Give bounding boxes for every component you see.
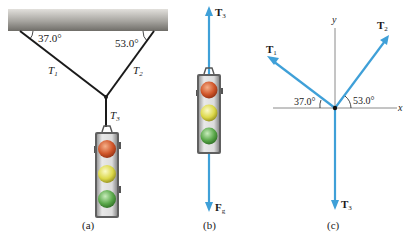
panel-label-c: (c) xyxy=(327,219,339,231)
angle-arc-left xyxy=(30,31,33,39)
force-label-t3-c: T3 xyxy=(341,199,352,212)
rope-label-t2: T2 xyxy=(133,65,143,78)
arrowhead-up-icon xyxy=(205,6,213,16)
panel-c xyxy=(267,28,397,210)
knot xyxy=(104,95,108,99)
origin-point xyxy=(333,106,337,110)
force-label-t2: T2 xyxy=(377,20,388,33)
arrowhead-t3-icon xyxy=(331,200,339,210)
y-axis-label: y xyxy=(332,15,336,25)
angle-label-53: 53.0° xyxy=(115,38,139,49)
angle-label-53-c: 53.0° xyxy=(353,96,375,106)
traffic-light-b xyxy=(196,68,223,154)
ceiling xyxy=(8,9,168,31)
force-label-t1: T1 xyxy=(266,44,277,57)
force-label-fg: Fg xyxy=(215,202,225,215)
angle-arc-right xyxy=(143,31,147,41)
force-label-t3-b: T3 xyxy=(215,7,226,20)
x-axis-label: x xyxy=(398,103,402,113)
panel-label-b: (b) xyxy=(203,219,216,231)
rope-label-t3: T3 xyxy=(110,110,120,123)
rope-label-t1: T1 xyxy=(48,65,58,78)
rope-t1 xyxy=(20,31,106,97)
traffic-light-a xyxy=(94,126,121,218)
angle-label-37-c: 37.0° xyxy=(294,97,316,107)
angle-arc-37 xyxy=(320,100,321,108)
panel-a xyxy=(8,9,168,218)
angle-label-37: 37.0° xyxy=(38,33,62,44)
angle-arc-53 xyxy=(345,96,351,108)
arrowhead-down-icon xyxy=(205,202,213,212)
panel-b xyxy=(196,6,223,212)
panel-label-a: (a) xyxy=(82,219,94,231)
